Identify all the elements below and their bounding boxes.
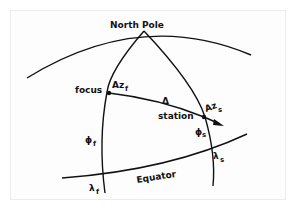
phi-f-label: ϕ — [85, 135, 92, 145]
arrowhead-icon — [213, 119, 224, 126]
az-s-subscript: s — [218, 106, 222, 114]
phi-f-subscript: f — [93, 140, 97, 148]
az-f-subscript: f — [125, 85, 129, 93]
lambda-f-subscript: f — [96, 188, 100, 196]
lambda-f-label: λ — [89, 183, 95, 193]
spherical-geometry-diagram: North Pole focus Az f Δ station Az s ϕ s… — [0, 0, 294, 212]
focus-label: focus — [75, 85, 102, 95]
lambda-s-label: λ — [213, 151, 219, 161]
phi-s-subscript: s — [202, 131, 206, 139]
equator-label: Equator — [136, 169, 178, 185]
station-label: station — [158, 111, 194, 121]
lambda-s-subscript: s — [220, 156, 224, 164]
station-point — [202, 115, 206, 119]
az-s-label: Az — [203, 100, 218, 114]
delta-label: Δ — [162, 96, 169, 106]
az-f-label: Az — [112, 80, 124, 90]
upper-arc — [27, 36, 251, 78]
north-pole-label: North Pole — [110, 20, 164, 30]
focus-point — [107, 91, 111, 95]
